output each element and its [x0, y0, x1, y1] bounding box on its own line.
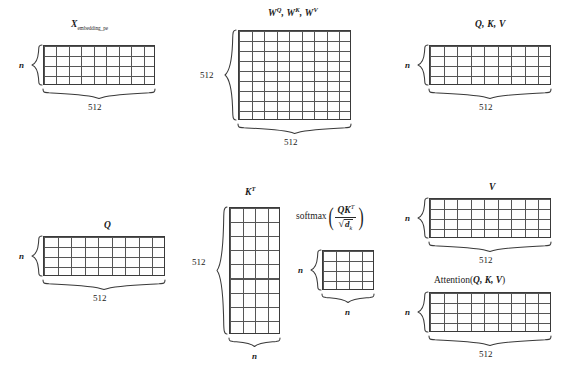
denominator-body: dk — [344, 219, 353, 231]
q-title: Q — [104, 221, 111, 231]
v-col-label: 512 — [479, 256, 493, 265]
attention-result-row-label: n — [405, 308, 410, 317]
attention-result-title: Attention(Q, K, V) — [434, 276, 505, 286]
k-transpose-title: KT — [245, 186, 256, 198]
softmax-result-col-label: n — [345, 308, 350, 317]
numerator-text: QK — [337, 205, 350, 215]
x-title-subscript: embedding_pe — [78, 25, 109, 31]
softmax-word: softmax — [296, 212, 327, 222]
w-qkv-title: WQ, WK, WV — [268, 7, 318, 19]
qkv-title: Q, K, V — [475, 20, 505, 30]
attention-result-grid — [429, 292, 551, 332]
softmax-result-row-label: n — [298, 266, 303, 275]
v-row-brace — [417, 198, 429, 238]
qkv-row-brace — [417, 45, 429, 85]
attention-suffix: ) — [502, 275, 505, 285]
softmax-formula: softmax ( QKT √dk ) — [296, 204, 365, 230]
softmax-paren-open: ( — [328, 206, 333, 228]
softmax-result-col-brace — [322, 293, 374, 304]
qkv-grid — [429, 45, 551, 85]
x-embedding-pe-title: Xembedding_pe — [71, 20, 108, 31]
w-qkv-col-label: 512 — [284, 138, 298, 147]
x-embedding-pe-grid — [43, 45, 155, 85]
k-transpose-grid — [229, 207, 280, 334]
v-grid — [429, 198, 551, 238]
softmax-result-grid — [322, 250, 374, 290]
w-qkv-row-label: 512 — [200, 71, 214, 80]
attention-result-col-brace — [429, 335, 551, 347]
attention-result-row-brace — [417, 292, 429, 332]
numerator-superscript: T — [351, 203, 355, 210]
k-transpose-row-brace — [216, 207, 228, 334]
v-row-label: n — [405, 214, 410, 223]
diagram-canvas: Xembedding_pe n 512 WQ, WK, WV 512 512 Q… — [0, 0, 567, 374]
q-row-brace — [31, 236, 43, 276]
softmax-result-row-brace — [310, 250, 322, 290]
q-col-brace — [43, 279, 165, 291]
softmax-numerator: QKT — [335, 204, 356, 217]
x-embedding-pe-row-brace — [31, 45, 43, 85]
w-qkv-col-brace — [238, 123, 351, 135]
v-col-brace — [429, 241, 551, 253]
w-qkv-row-brace — [224, 30, 237, 120]
k-transpose-col-brace — [229, 337, 280, 348]
w-qkv-grid — [238, 30, 351, 120]
k-transpose-col-label: n — [252, 352, 257, 361]
softmax-denominator: √dk — [337, 218, 356, 231]
w-k-label: W — [287, 8, 296, 18]
q-row-label: n — [19, 252, 24, 261]
w-q-label: W — [268, 8, 277, 18]
x-embedding-pe-col-brace — [43, 88, 155, 100]
x-embedding-pe-col-label: 512 — [88, 103, 102, 112]
k-transpose-row-label: 512 — [192, 258, 206, 267]
attention-args: Q, K, V — [473, 275, 502, 285]
x-embedding-pe-row-label: n — [19, 61, 24, 70]
v-title: V — [489, 183, 496, 193]
softmax-paren-close: ) — [358, 206, 363, 228]
denominator-subscript: k — [350, 224, 353, 230]
k-title-superscript: T — [252, 185, 256, 192]
softmax-fraction: QKT √dk — [335, 204, 356, 230]
w-v-superscript: V — [313, 6, 318, 13]
q-grid — [43, 236, 165, 276]
attention-prefix: Attention( — [434, 275, 473, 285]
qkv-row-label: n — [405, 61, 410, 70]
qkv-col-label: 512 — [479, 103, 493, 112]
attention-result-col-label: 512 — [479, 350, 493, 359]
q-col-label: 512 — [93, 294, 107, 303]
qkv-col-brace — [429, 88, 551, 100]
